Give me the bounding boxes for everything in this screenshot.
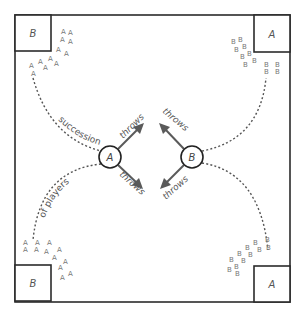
thrower-b-label: B xyxy=(189,152,196,163)
path-label-of-players: of players xyxy=(37,176,71,219)
svg-text:B: B xyxy=(265,236,270,244)
throw-label-b-down: throws xyxy=(161,173,191,201)
path-top-right xyxy=(202,78,266,151)
svg-text:A: A xyxy=(68,29,73,37)
svg-text:A: A xyxy=(23,246,28,254)
svg-text:A: A xyxy=(44,248,49,256)
corner-top-right: A xyxy=(254,15,290,52)
svg-text:A: A xyxy=(68,270,73,278)
svg-text:B: B xyxy=(231,38,236,46)
path-bottom-right xyxy=(202,163,268,250)
svg-text:A: A xyxy=(60,274,65,282)
svg-text:A: A xyxy=(34,246,39,254)
svg-text:B: B xyxy=(257,246,262,254)
svg-text:B: B xyxy=(235,270,240,278)
corner-label-bottom-right: A xyxy=(268,279,276,290)
svg-text:B: B xyxy=(264,68,269,76)
svg-text:A: A xyxy=(29,62,34,70)
svg-text:B: B xyxy=(248,251,253,259)
svg-text:B: B xyxy=(275,68,280,76)
svg-text:A: A xyxy=(57,246,62,254)
corner-label-bottom-left: B xyxy=(30,278,37,289)
corner-bottom-right: A xyxy=(254,266,290,302)
svg-text:A: A xyxy=(54,60,59,68)
corner-top-left: B xyxy=(15,15,51,51)
svg-text:A: A xyxy=(61,28,66,36)
svg-text:B: B xyxy=(227,266,232,274)
svg-text:A: A xyxy=(63,258,68,266)
arrow-b-up xyxy=(165,129,184,149)
svg-text:B: B xyxy=(266,244,271,252)
drill-diagram: B A B A succession of players throws thr… xyxy=(0,0,306,319)
svg-text:B: B xyxy=(241,257,246,265)
corner-bottom-left: B xyxy=(15,265,51,301)
svg-text:A: A xyxy=(43,64,48,72)
throw-label-a-down: throws xyxy=(118,169,148,197)
svg-text:A: A xyxy=(68,38,73,46)
svg-text:A: A xyxy=(48,55,53,63)
svg-text:A: A xyxy=(60,36,65,44)
corner-label-top-left: B xyxy=(30,28,37,39)
thrower-a-label: A xyxy=(106,152,114,163)
thrower-b: B xyxy=(181,146,203,168)
svg-text:A: A xyxy=(58,264,63,272)
svg-text:A: A xyxy=(56,46,61,54)
thrower-a: A xyxy=(99,146,121,168)
svg-text:B: B xyxy=(243,61,248,69)
corner-label-top-right: A xyxy=(268,29,276,40)
svg-text:B: B xyxy=(234,46,239,54)
svg-text:A: A xyxy=(52,254,57,262)
svg-text:A: A xyxy=(64,50,69,58)
svg-text:B: B xyxy=(240,53,245,61)
svg-text:A: A xyxy=(47,239,52,247)
svg-text:A: A xyxy=(31,70,36,78)
svg-text:B: B xyxy=(252,57,257,65)
